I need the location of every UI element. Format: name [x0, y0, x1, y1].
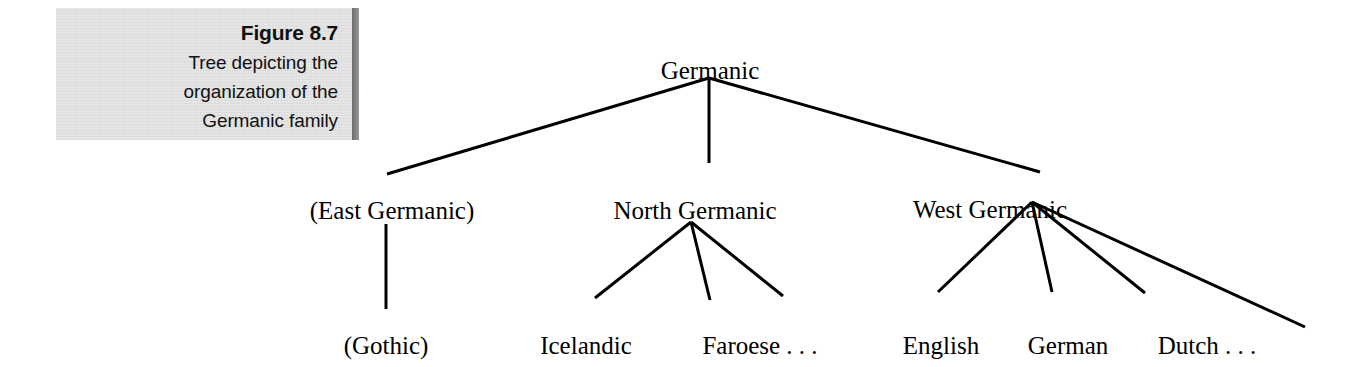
tree-node-dutch: Dutch . . .: [1158, 333, 1257, 358]
tree-node-north-germanic: North Germanic: [613, 198, 776, 223]
tree-node-gothic: (Gothic): [344, 333, 429, 358]
tree-edge-germanic-to-east-germanic: [387, 78, 709, 174]
tree-node-west-germanic: West Germanic: [913, 197, 1067, 222]
tree-node-east-germanic: (East Germanic): [310, 198, 475, 223]
tree-node-germanic: Germanic: [661, 58, 760, 83]
figure-8-7: Figure 8.7 Tree depicting the organizati…: [0, 0, 1367, 367]
tree-node-english: English: [903, 333, 979, 358]
figure-caption-line-3: Germanic family: [66, 106, 338, 135]
tree-node-german: German: [1028, 333, 1109, 358]
tree-node-faroese: Faroese . . .: [702, 333, 817, 358]
figure-caption-line-1: Tree depicting the: [66, 48, 338, 77]
tree-edge-west-germanic-to-continuation: [1032, 202, 1305, 327]
tree-edge-north-germanic-to-icelandic: [595, 222, 691, 298]
figure-caption-title: Figure 8.7: [66, 18, 338, 48]
figure-caption-box: Figure 8.7 Tree depicting the organizati…: [56, 8, 352, 140]
figure-caption-line-2: organization of the: [66, 77, 338, 106]
tree-edge-germanic-to-west-germanic: [709, 78, 1040, 172]
tree-node-icelandic: Icelandic: [540, 333, 632, 358]
